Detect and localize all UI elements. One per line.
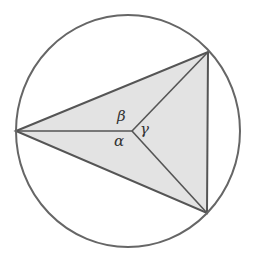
angle-beta-label: β <box>117 109 126 124</box>
diagram-svg <box>0 0 255 262</box>
inscribed-triangle <box>16 52 208 213</box>
angle-gamma-label: γ <box>140 122 149 137</box>
diagram-canvas: β α γ <box>0 0 255 262</box>
angle-alpha-label: α <box>114 134 124 149</box>
